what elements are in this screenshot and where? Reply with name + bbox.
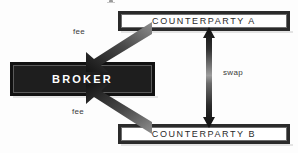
counterparty-b-label: COUNTERPARTY B (152, 129, 256, 139)
swap-label: swap (223, 68, 243, 77)
diagram-canvas: COUNTERPARTY A COUNTERPARTY B BROKER (0, 0, 298, 153)
fee-label-bottom: fee (72, 107, 84, 116)
counterparty-b-shadow (121, 144, 293, 146)
swap-arrow-icon (198, 27, 220, 128)
fee-arrow-bottom-icon (86, 84, 152, 134)
fee-arrow-top-icon (86, 22, 152, 72)
fee-label-top: fee (73, 27, 85, 36)
counterparty-a-label: COUNTERPARTY A (152, 16, 256, 26)
scan-speck-icon (107, 2, 115, 3)
